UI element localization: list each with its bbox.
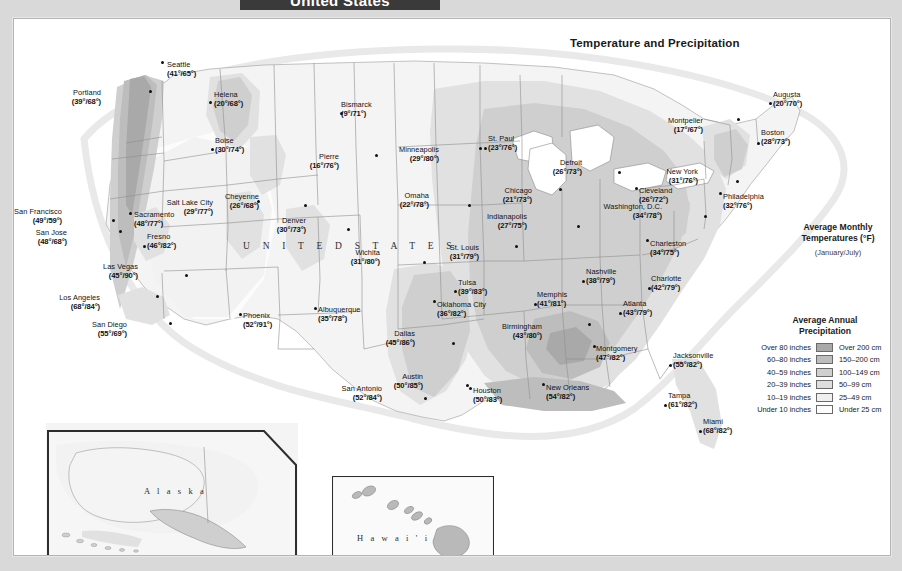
city-temperatures: (39°/83°): [458, 288, 487, 297]
city-label: Minneapolis(29°/80°): [399, 146, 439, 163]
alaska-label: A l a s k a: [144, 486, 206, 496]
city-dot-marker: [669, 364, 672, 367]
precipitation-legend-inches: 60–80 inches: [749, 355, 816, 364]
city-dot-marker: [314, 307, 317, 310]
city-label: Montgomery(47°/82°): [596, 345, 638, 362]
temperature-legend: Average Monthly Temperatures (°F) (Janua…: [776, 222, 891, 257]
city-dot-marker: [582, 280, 585, 283]
city-dot-marker: [469, 387, 472, 390]
city-temperatures: (23°/76°): [488, 144, 517, 153]
precipitation-legend-swatch: [816, 368, 833, 377]
city-label: Charleston(34°/75°): [650, 240, 686, 257]
city-label: Phoenix(52°/91°): [243, 312, 272, 329]
city-dot-marker: [515, 245, 518, 248]
city-dot-marker: [185, 274, 188, 277]
city-temperatures: (36°/82°): [437, 310, 486, 319]
city-temperatures: (20°/70°): [773, 100, 802, 109]
precipitation-legend-row: Over 80 inchesOver 200 cm: [749, 341, 891, 354]
city-dot-marker: [169, 322, 172, 325]
city-dot-marker: [119, 230, 122, 233]
city-dot-marker: [452, 342, 455, 345]
city-temperatures: (68°/82°): [703, 427, 732, 436]
city-dot-marker: [577, 225, 580, 228]
city-temperatures: (35°/78°): [318, 315, 360, 324]
city-temperatures: (42°/79°): [651, 284, 681, 293]
city-dot-marker: [736, 180, 739, 183]
city-temperatures: (50°/83°): [473, 396, 502, 405]
precipitation-legend-cm: 25–49 cm: [833, 393, 891, 402]
city-label: Helena(20°/68°): [214, 91, 243, 108]
map-panel: Temperature and Precipitation: [13, 18, 891, 556]
city-label: Wichita(31°/80°): [351, 249, 380, 266]
city-dot-marker: [347, 228, 350, 231]
city-label: Dallas(45°/86°): [386, 330, 415, 347]
city-dot-marker: [484, 147, 487, 150]
city-temperatures: (34°/75°): [650, 249, 686, 258]
precipitation-legend-inches: 20–39 inches: [749, 380, 816, 389]
city-temperatures: (61°/82°): [668, 401, 697, 410]
city-label: Cheyenne(26°/68°): [225, 193, 259, 210]
precipitation-legend-cm: Over 200 cm: [833, 343, 891, 352]
city-label: Tampa(61°/82°): [668, 392, 697, 409]
city-dot-marker: [161, 61, 164, 64]
city-label: Sacramento(48°/77°): [134, 211, 174, 228]
city-temperatures: (31°/76°): [666, 177, 698, 186]
city-dot-marker: [588, 323, 591, 326]
city-label: Memphis(41°/81°): [537, 291, 567, 308]
city-label: Oklahoma City(36°/82°): [437, 301, 486, 318]
city-dot-marker: [257, 200, 260, 203]
city-label: San Diego(55°/69°): [92, 321, 127, 338]
city-temperatures: (22°/78°): [400, 201, 429, 210]
city-temperatures: (46°/82°): [147, 242, 176, 251]
city-temperatures: (16°/76°): [310, 162, 339, 171]
city-dot-marker: [454, 290, 457, 293]
city-temperatures: (31°/79°): [450, 253, 479, 262]
city-label: Jacksonville(55°/82°): [673, 352, 713, 369]
city-dot-marker: [769, 102, 772, 105]
page-title: United States: [290, 0, 390, 9]
city-label: Austin(50°/85°): [394, 373, 423, 390]
city-dot-marker: [757, 142, 760, 145]
city-label: Albuquerque(35°/78°): [318, 306, 360, 323]
city-dot-marker: [375, 154, 378, 157]
city-label: St. Paul(23°/76°): [488, 135, 517, 152]
temperature-legend-line2: Temperatures (°F): [776, 233, 891, 244]
city-label: San Antonio(52°/84°): [342, 385, 382, 402]
hawaii-label: H a w a i ' i: [357, 533, 430, 543]
city-temperatures: (31°/80°): [351, 258, 380, 267]
city-temperatures: (68°/84°): [59, 303, 100, 312]
city-label: Nashville(38°/79°): [586, 268, 616, 285]
city-dot-marker: [559, 188, 562, 191]
city-label: Miami(68°/82°): [703, 418, 732, 435]
precipitation-legend-cm: 150–200 cm: [833, 355, 891, 364]
city-temperatures: (55°/82°): [673, 361, 713, 370]
precipitation-legend-swatch: [816, 380, 833, 389]
precipitation-legend-title-line2: Precipitation: [749, 326, 891, 337]
city-dot-marker: [129, 212, 132, 215]
city-dot-marker: [211, 148, 214, 151]
precipitation-legend-inches: Under 10 inches: [749, 405, 816, 414]
city-temperatures: (30°/73°): [277, 226, 306, 235]
city-label: Portland(39°/68°): [72, 89, 101, 106]
precipitation-legend-row: 60–80 inches150–200 cm: [749, 354, 891, 367]
city-temperatures: (38°/79°): [586, 277, 616, 286]
city-dot-marker: [433, 300, 436, 303]
city-temperatures: (28°/73°): [761, 138, 790, 147]
city-dot-marker: [593, 345, 596, 348]
city-dot-marker: [112, 219, 115, 222]
city-label: St. Louis(31°/79°): [450, 244, 479, 261]
map-page: United States Temperature and Precipitat…: [0, 0, 902, 571]
city-label: Los Angeles(68°/84°): [59, 294, 100, 311]
city-dot-marker: [304, 204, 307, 207]
city-dot-marker: [664, 404, 667, 407]
city-dot-marker: [646, 239, 649, 242]
city-label: Atlanta(43°/79°): [623, 300, 652, 317]
city-dot-marker: [423, 261, 426, 264]
city-dot-marker: [468, 204, 471, 207]
precipitation-legend-swatch: [816, 393, 833, 402]
city-temperatures: (52°/91°): [243, 321, 272, 330]
city-temperatures: (43°/80°): [502, 332, 542, 341]
city-label: Philadelphia(32°/76°): [723, 193, 764, 210]
city-dot-marker: [704, 215, 707, 218]
city-dot-marker: [719, 192, 722, 195]
